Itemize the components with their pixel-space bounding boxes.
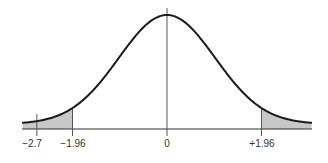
tick-label-neg-1-96: −1.96 [60, 138, 85, 149]
tick-label-zero: 0 [164, 138, 170, 149]
tick-label-pos-1-96: +1.96 [249, 138, 274, 149]
tick-label-neg-2-7: −2.7 [22, 138, 42, 149]
